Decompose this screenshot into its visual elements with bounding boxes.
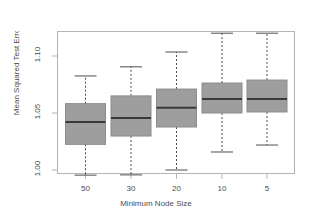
x-tick-label-4: 10 <box>207 184 237 193</box>
x-tick-label-1: 50 <box>71 184 101 193</box>
boxplot-group-50 <box>66 76 106 175</box>
boxplot-group-20 <box>157 52 197 170</box>
x-tick-label-3: 20 <box>162 184 192 193</box>
x-tick-label-5: 5 <box>252 184 282 193</box>
y-tick-label-1: 1.00 <box>33 156 42 182</box>
y-tick-label-3: 1.10 <box>33 42 42 68</box>
boxplot-figure: Shallow Deep Mean Squared Test Error 1.0… <box>0 0 312 221</box>
boxplot-group-5 <box>247 33 287 145</box>
x-axis-title: Minimum Node Size <box>0 199 312 208</box>
boxplot-group-10 <box>202 33 242 152</box>
boxplot-group-30 <box>111 67 151 175</box>
x-tick-label-2: 30 <box>116 184 146 193</box>
y-tick-label-2: 1.05 <box>33 99 42 125</box>
